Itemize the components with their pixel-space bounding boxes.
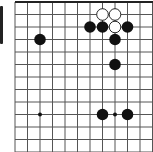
black-stone[interactable] [122, 21, 134, 33]
black-stone[interactable] [84, 21, 96, 33]
go-board[interactable] [0, 0, 153, 152]
white-stone[interactable] [109, 9, 121, 21]
black-stone[interactable] [97, 21, 109, 33]
star-point [38, 113, 42, 117]
white-stone[interactable] [97, 9, 109, 21]
black-stone[interactable] [109, 34, 121, 46]
black-stone[interactable] [109, 59, 121, 71]
white-stone[interactable] [109, 21, 121, 33]
black-stone[interactable] [97, 109, 109, 121]
black-stone[interactable] [122, 109, 134, 121]
black-stone[interactable] [34, 34, 46, 46]
star-point [113, 113, 117, 117]
